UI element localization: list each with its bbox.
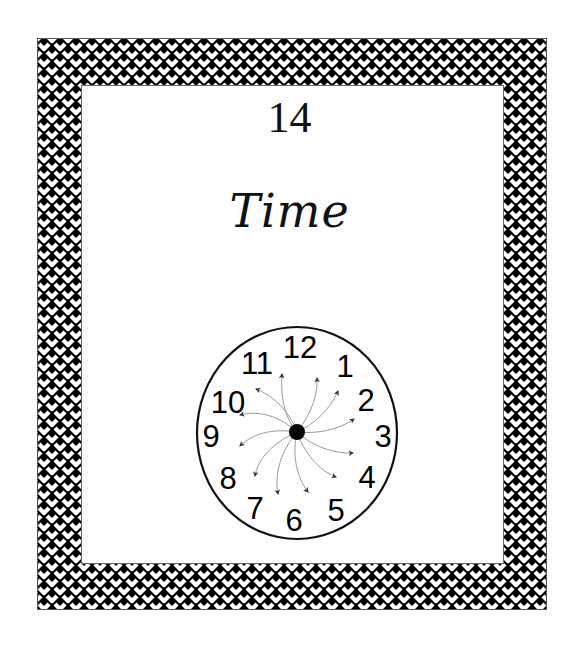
numeral-8: 8	[219, 461, 236, 496]
numeral-6: 6	[285, 503, 302, 538]
numeral-3: 3	[374, 419, 391, 454]
numeral-5: 5	[327, 493, 344, 528]
numeral-7: 7	[246, 491, 263, 526]
numeral-4: 4	[358, 460, 375, 495]
clock-center-dot	[289, 424, 305, 440]
numeral-11: 11	[241, 346, 273, 381]
numeral-2: 2	[357, 383, 374, 418]
numeral-1: 1	[336, 349, 353, 384]
clock-illustration: 12 1 2 3 4 5 6 7 8 9 10 11	[0, 0, 579, 646]
numeral-12: 12	[283, 330, 317, 365]
numeral-9: 9	[202, 419, 219, 454]
numeral-10: 10	[211, 385, 245, 420]
